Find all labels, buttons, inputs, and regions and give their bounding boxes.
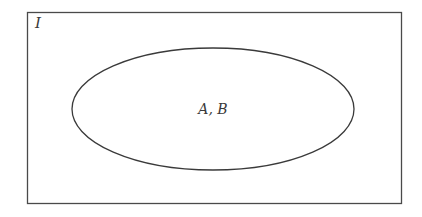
universal-set-label: I (34, 14, 42, 32)
venn-diagram: I A, B (0, 0, 422, 217)
set-label-a-b: A, B (196, 101, 227, 117)
